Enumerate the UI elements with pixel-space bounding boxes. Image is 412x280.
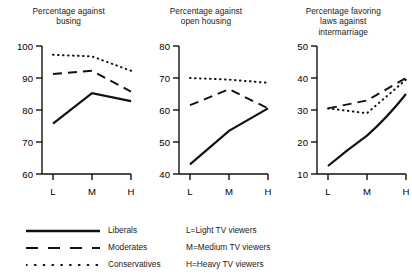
series-group-busing (53, 55, 131, 124)
x-tick-label: H (265, 186, 272, 197)
y-tick-label: 80 (22, 105, 33, 116)
figure-root: Percentage against busing 100 90 80 (0, 0, 412, 280)
legend-label-liberals: Liberals (108, 225, 137, 235)
y-tick-label: 50 (297, 41, 308, 52)
figure-legend: Liberals Moderates Conservatives L=Light… (0, 214, 412, 280)
y-tick-label: 10 (297, 169, 308, 180)
plot-area-intermarriage: 50 40 30 20 10 L M H (275, 34, 412, 204)
series-group-intermarriage (328, 78, 406, 166)
key-medium-tv-viewers: M=Medium TV viewers (186, 242, 270, 252)
plot-svg-intermarriage: 50 40 30 20 10 L M H (275, 34, 412, 204)
series-line-liberals (190, 108, 268, 164)
series-line-moderates (328, 78, 406, 108)
series-line-liberals (53, 93, 131, 123)
key-heavy-tv-viewers: H=Heavy TV viewers (186, 259, 264, 269)
chart-title-intermarriage: Percentage favoring laws against interma… (275, 0, 412, 34)
y-tick-label: 100 (17, 41, 33, 52)
chart-title-busing: Percentage against busing (0, 0, 137, 34)
y-axis-busing: 100 90 80 70 60 (17, 41, 42, 180)
x-axis-intermarriage: L M H (317, 174, 410, 197)
chart-title-line-1: Percentage against (0, 6, 137, 16)
y-tick-label: 20 (297, 137, 308, 148)
chart-panel-busing: Percentage against busing 100 90 80 (0, 0, 137, 212)
key-light-tv-viewers: L=Light TV viewers (186, 225, 257, 235)
legend-label-conservatives: Conservatives (108, 259, 161, 269)
series-line-moderates (190, 89, 268, 108)
series-line-liberals (328, 94, 406, 166)
chart-panel-open-housing: Percentage against open housing 80 70 60 (137, 0, 274, 212)
plot-svg-busing: 100 90 80 70 60 L M H (0, 34, 137, 204)
y-axis-open-housing: 80 70 60 50 40 (160, 41, 180, 180)
y-tick-label: 80 (160, 41, 171, 52)
y-tick-label: 60 (160, 105, 171, 116)
x-tick-label: L (188, 186, 194, 197)
chart-title-line-2: busing (0, 16, 137, 26)
y-tick-label: 50 (160, 137, 171, 148)
x-tick-label: M (88, 186, 96, 197)
y-tick-label: 70 (160, 73, 171, 84)
series-line-conservatives (53, 55, 131, 71)
x-tick-label: M (363, 186, 371, 197)
y-tick-label: 60 (22, 169, 33, 180)
series-line-moderates (53, 71, 131, 92)
y-tick-label: 90 (22, 73, 33, 84)
series-group-open-housing (190, 78, 268, 164)
x-tick-label: L (50, 186, 56, 197)
y-tick-label: 70 (22, 137, 33, 148)
x-tick-label: L (325, 186, 331, 197)
y-tick-label: 40 (160, 169, 171, 180)
x-tick-label: M (225, 186, 233, 197)
x-tick-label: H (128, 186, 135, 197)
y-tick-label: 30 (297, 105, 308, 116)
chart-title-open-housing: Percentage against open housing (137, 0, 274, 34)
y-tick-label: 40 (297, 73, 308, 84)
x-axis-busing: L M H (42, 174, 135, 197)
chart-panel-group: Percentage against busing 100 90 80 (0, 0, 412, 212)
chart-title-line-2: open housing (137, 16, 274, 26)
chart-title-line-1: Percentage against (137, 6, 274, 16)
plot-area-busing: 100 90 80 70 60 L M H (0, 34, 137, 204)
legend-label-moderates: Moderates (108, 242, 147, 252)
chart-title-line-2: laws against (275, 16, 412, 26)
plot-area-open-housing: 80 70 60 50 40 L M H (137, 34, 274, 204)
chart-title-line-1: Percentage favoring (275, 6, 412, 16)
y-axis-intermarriage: 50 40 30 20 10 (297, 41, 317, 180)
x-axis-open-housing: L M H (179, 174, 272, 197)
plot-svg-open-housing: 80 70 60 50 40 L M H (137, 34, 274, 204)
chart-panel-intermarriage: Percentage favoring laws against interma… (275, 0, 412, 212)
x-tick-label: H (402, 186, 409, 197)
series-line-conservatives (190, 78, 268, 83)
